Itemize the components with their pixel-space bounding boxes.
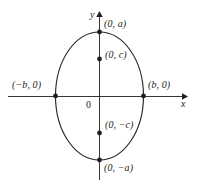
point-right-vertex <box>141 94 146 99</box>
ellipse-diagram-canvas <box>0 0 200 188</box>
label-upper-focus: (0, c) <box>105 50 127 60</box>
x-axis-label: x <box>181 99 185 109</box>
y-axis-label: y <box>90 10 94 20</box>
ellipse-figure: y x 0 (0, a) (0, c) (−b, 0) (b, 0) (0, −… <box>0 0 200 188</box>
point-top-vertex <box>97 30 102 35</box>
point-left-vertex <box>53 94 58 99</box>
label-left-vertex: (−b, 0) <box>12 80 41 90</box>
label-top-vertex: (0, a) <box>104 19 126 29</box>
point-upper-focus <box>97 57 102 62</box>
origin-label: 0 <box>86 100 91 110</box>
label-bottom-vertex: (0, −a) <box>104 163 133 173</box>
x-axis <box>8 93 188 99</box>
y-axis <box>96 11 102 180</box>
label-right-vertex: (b, 0) <box>148 80 170 90</box>
y-axis-arrowhead <box>96 11 102 17</box>
point-lower-focus <box>97 131 102 136</box>
point-bottom-vertex <box>97 158 102 163</box>
label-lower-focus: (0, −c) <box>105 120 134 130</box>
